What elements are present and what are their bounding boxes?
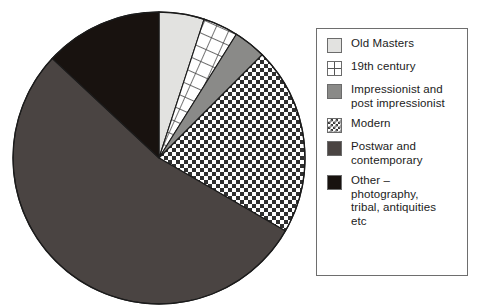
legend-item-modern[interactable]: Modern (327, 117, 461, 133)
legend-label-other: Other – photography, tribal, antiquities… (351, 174, 436, 228)
pie-slices (13, 12, 305, 304)
pie-svg (0, 0, 320, 307)
legend-label-impressionist: Impressionist and post impressionist (351, 83, 445, 110)
legend-label-modern: Modern (351, 117, 391, 131)
legend-label-19th-century: 19th century (351, 60, 416, 74)
19th-century-swatch-icon (327, 61, 342, 76)
legend-label-postwar: Postwar and contemporary (351, 140, 423, 167)
legend-item-19th-century[interactable]: 19th century (327, 60, 461, 76)
legend-list: Old Masters 19th century Impressionist a… (327, 37, 461, 228)
modern-swatch-icon (327, 118, 342, 133)
legend-item-postwar[interactable]: Postwar and contemporary (327, 140, 461, 167)
pie-chart-graphic (0, 0, 320, 307)
legend-item-impressionist[interactable]: Impressionist and post impressionist (327, 83, 461, 110)
postwar-swatch-icon (327, 141, 342, 156)
other-swatch-icon (327, 175, 342, 190)
chart-legend: Old Masters 19th century Impressionist a… (316, 28, 468, 276)
legend-item-old-masters[interactable]: Old Masters (327, 37, 461, 53)
legend-label-old-masters: Old Masters (351, 37, 414, 51)
impressionist-swatch-icon (327, 84, 342, 99)
old-masters-swatch-icon (327, 38, 342, 53)
pie-chart-figure: Old Masters 19th century Impressionist a… (0, 0, 477, 307)
legend-item-other[interactable]: Other – photography, tribal, antiquities… (327, 174, 461, 228)
